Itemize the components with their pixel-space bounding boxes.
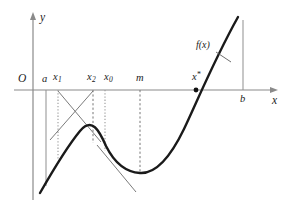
tick-label-x1-subscript: 1 xyxy=(58,75,62,84)
tick-label-x2: x2 xyxy=(87,72,95,83)
tick-label-b: b xyxy=(240,94,245,105)
y-axis-label: y xyxy=(40,12,45,24)
tick-label-a: a xyxy=(42,74,47,85)
tick-label-m: m xyxy=(136,73,144,84)
secant-line-from-x2 xyxy=(50,91,93,140)
root-label-x-star: x* xyxy=(192,72,201,83)
function-label: f(x) xyxy=(196,40,210,50)
x-axis-arrow xyxy=(270,87,278,93)
tangent-line-at-x0 xyxy=(97,145,136,192)
tick-label-x0-base: x xyxy=(104,71,109,82)
function-graph-figure: y x O a x1 x2 x0 m x* b f(x) xyxy=(0,0,288,215)
root-marker-dot xyxy=(194,88,199,93)
tick-label-x2-subscript: 2 xyxy=(92,75,96,84)
tick-label-x1-base: x xyxy=(53,71,58,82)
secant-line-from-x1 xyxy=(58,91,101,142)
tick-label-x2-base: x xyxy=(87,71,92,82)
tick-label-x0-subscript: 0 xyxy=(109,75,113,84)
x-axis-label: x xyxy=(272,95,277,107)
root-label-star-mark: * xyxy=(197,70,201,79)
origin-label: O xyxy=(18,73,26,85)
root-label-base: x xyxy=(192,71,197,82)
graph-canvas xyxy=(0,0,288,215)
tick-label-x1: x1 xyxy=(53,72,61,83)
tick-label-x0: x0 xyxy=(104,72,112,83)
y-axis-arrow xyxy=(30,12,36,20)
